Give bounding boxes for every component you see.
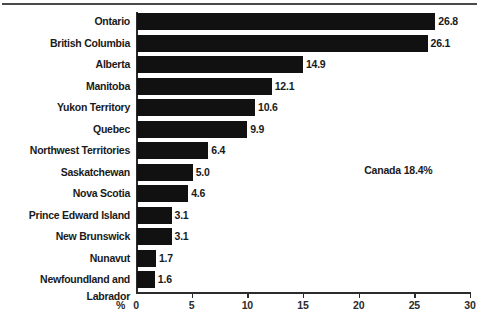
bar bbox=[137, 99, 255, 116]
bar-row: Manitoba12.1 bbox=[0, 78, 479, 95]
x-tick-label: 5 bbox=[189, 299, 195, 311]
bar-value-label: 5.0 bbox=[196, 164, 210, 181]
bar bbox=[137, 164, 193, 181]
bar bbox=[137, 271, 155, 288]
category-label: British Columbia bbox=[0, 35, 130, 52]
bar bbox=[137, 142, 208, 159]
bar-row: Prince Edward Island3.1 bbox=[0, 207, 479, 224]
x-tick bbox=[470, 292, 471, 298]
x-tick bbox=[247, 292, 248, 298]
x-tick-label: 0 bbox=[133, 299, 139, 311]
bar-value-label: 12.1 bbox=[275, 78, 295, 95]
bar-row: Newfoundland and Labrador1.6 bbox=[0, 271, 479, 288]
bar-row: New Brunswick3.1 bbox=[0, 228, 479, 245]
bar-value-label: 3.1 bbox=[175, 228, 189, 245]
bar-row: Quebec9.9 bbox=[0, 121, 479, 138]
category-label: Newfoundland and Labrador bbox=[0, 271, 130, 305]
bar-value-label: 4.6 bbox=[191, 185, 205, 202]
bar bbox=[137, 78, 272, 95]
x-tick bbox=[414, 292, 415, 298]
bar-chart: Ontario26.8British Columbia26.1Alberta14… bbox=[0, 0, 479, 314]
bar-value-label: 14.9 bbox=[306, 56, 326, 73]
bar-row: Ontario26.8 bbox=[0, 13, 479, 30]
bar-value-label: 26.8 bbox=[438, 13, 458, 30]
x-tick-label: 30 bbox=[464, 299, 475, 311]
x-tick-label: 10 bbox=[242, 299, 253, 311]
bar-row: Nova Scotia4.6 bbox=[0, 185, 479, 202]
category-label: Ontario bbox=[0, 13, 130, 30]
bar bbox=[137, 185, 188, 202]
category-label: Saskatchewan bbox=[0, 164, 130, 181]
bar bbox=[137, 121, 247, 138]
bar-value-label: 9.9 bbox=[250, 121, 264, 138]
top-divider-rule bbox=[2, 3, 477, 5]
category-label: Manitoba bbox=[0, 78, 130, 95]
bar-value-label: 3.1 bbox=[175, 207, 189, 224]
bar bbox=[137, 207, 172, 224]
bar bbox=[137, 35, 428, 52]
category-label: Yukon Territory bbox=[0, 99, 130, 116]
x-tick bbox=[359, 292, 360, 298]
bar-value-label: 1.6 bbox=[158, 271, 172, 288]
x-tick-label: 25 bbox=[409, 299, 420, 311]
x-tick bbox=[303, 292, 304, 298]
bar-value-label: 26.1 bbox=[431, 35, 451, 52]
x-tick-label: 15 bbox=[297, 299, 308, 311]
bar-row: Alberta14.9 bbox=[0, 56, 479, 73]
category-label: Prince Edward Island bbox=[0, 207, 130, 224]
x-tick-label: 20 bbox=[353, 299, 364, 311]
bar-row: Yukon Territory10.6 bbox=[0, 99, 479, 116]
bar-value-label: 1.7 bbox=[159, 250, 173, 267]
bar-value-label: 10.6 bbox=[258, 99, 278, 116]
bar-row: Northwest Territories6.4 bbox=[0, 142, 479, 159]
bar bbox=[137, 228, 172, 245]
category-label: Northwest Territories bbox=[0, 142, 130, 159]
bar bbox=[137, 250, 156, 267]
category-label: New Brunswick bbox=[0, 228, 130, 245]
category-label: Quebec bbox=[0, 121, 130, 138]
bar-row: Nunavut1.7 bbox=[0, 250, 479, 267]
chart-annotation: Canada 18.4% bbox=[364, 164, 432, 176]
x-tick bbox=[192, 292, 193, 298]
bar bbox=[137, 56, 303, 73]
x-axis-percent-symbol: % bbox=[116, 299, 125, 311]
bar bbox=[137, 13, 435, 30]
category-label: Alberta bbox=[0, 56, 130, 73]
category-label: Nova Scotia bbox=[0, 185, 130, 202]
bar-value-label: 6.4 bbox=[211, 142, 225, 159]
category-label: Nunavut bbox=[0, 250, 130, 267]
bar-row: British Columbia26.1 bbox=[0, 35, 479, 52]
